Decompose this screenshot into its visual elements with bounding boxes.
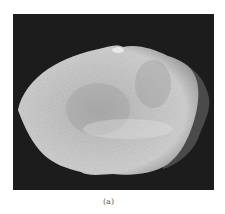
rock-specimen-image <box>13 14 214 190</box>
rock-photo <box>13 14 214 190</box>
figure-caption: (a) <box>0 197 217 206</box>
